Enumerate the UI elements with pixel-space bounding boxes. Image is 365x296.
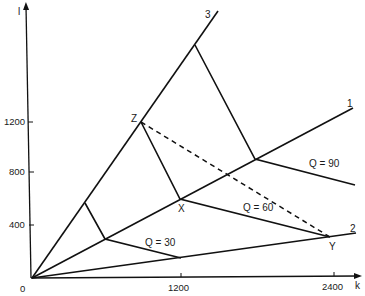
point-label-z: Z <box>131 114 137 124</box>
isoquant-label-q30: Q = 30 <box>145 238 175 248</box>
origin-label: 0 <box>20 284 25 294</box>
x-axis <box>31 276 358 278</box>
y-tick-label-800: 800 <box>9 167 25 177</box>
ray-3 <box>32 11 218 278</box>
y-tick-label-1200: 1200 <box>4 117 25 127</box>
ray-label-1: 1 <box>347 99 353 109</box>
isoquant-q30 <box>85 203 181 258</box>
point-label-x: X <box>178 204 185 214</box>
ray-label-3: 3 <box>205 10 211 20</box>
isoquant-diagram: l k 0 1200 800 400 1200 2400 3 1 2 Q = 3… <box>0 0 365 296</box>
isoquant-label-q60: Q = 60 <box>243 203 273 213</box>
y-axis <box>26 6 31 278</box>
x-axis-label: k <box>355 281 360 291</box>
isoquant-label-q90: Q = 90 <box>309 159 339 169</box>
x-tick-label-1200: 1200 <box>168 283 189 293</box>
ray-label-2: 2 <box>350 224 356 234</box>
diagram-graphics <box>0 0 365 296</box>
ray-1 <box>32 108 353 278</box>
point-label-y: Y <box>329 242 336 252</box>
y-tick-label-400: 400 <box>9 220 25 230</box>
y-axis-label: l <box>18 7 20 17</box>
x-tick-label-2400: 2400 <box>322 282 343 292</box>
ray-2 <box>32 233 356 278</box>
